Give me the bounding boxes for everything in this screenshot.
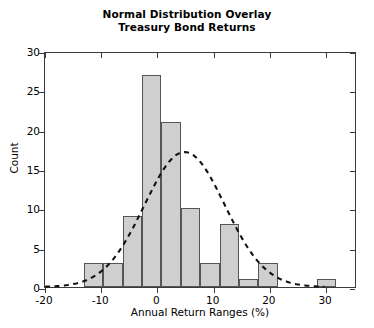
y-axis-tick-right	[350, 210, 355, 211]
y-axis-tick-label: 15	[27, 164, 40, 176]
x-axis-tick-label: -20	[35, 294, 52, 306]
y-axis-tick-right	[350, 132, 355, 133]
y-axis-tick-label: 10	[27, 203, 40, 215]
x-axis-title: Annual Return Ranges (%)	[44, 306, 356, 318]
chart-title: Normal Distribution Overlay Treasury Bon…	[0, 8, 374, 33]
x-axis-tick-top	[45, 53, 46, 58]
y-axis-tick-label: 0	[33, 282, 40, 294]
chart-figure: Normal Distribution Overlay Treasury Bon…	[0, 0, 374, 328]
chart-title-line2: Treasury Bond Returns	[0, 21, 374, 34]
y-axis-tick	[39, 92, 45, 93]
y-axis-tick	[39, 132, 45, 133]
x-axis-tick-top	[101, 53, 102, 58]
x-axis-tick-label: 20	[262, 294, 275, 306]
y-axis-tick-right	[350, 289, 355, 290]
y-axis-tick-label: 25	[27, 85, 40, 97]
x-axis-tick-label: -10	[92, 294, 109, 306]
x-axis-tick-top	[214, 53, 215, 58]
plot-area	[44, 52, 356, 288]
x-axis-tick-top	[326, 53, 327, 58]
chart-title-line1: Normal Distribution Overlay	[103, 8, 272, 20]
y-axis-tick-label: 5	[33, 243, 40, 255]
y-axis-labels: 051015202530	[0, 52, 40, 288]
y-axis-tick-right	[350, 250, 355, 251]
y-axis-tick	[39, 250, 45, 251]
x-axis-tick-top	[270, 53, 271, 58]
y-axis-tick-right	[350, 171, 355, 172]
x-axis-tick-label: 10	[206, 294, 219, 306]
y-axis-tick	[39, 171, 45, 172]
y-axis-tick-right	[350, 53, 355, 54]
x-axis-tick-top	[157, 53, 158, 58]
y-axis-tick-label: 20	[27, 125, 40, 137]
x-axis-tick-label: 30	[318, 294, 331, 306]
x-axis-tick-label: 0	[153, 294, 160, 306]
y-axis-tick-label: 30	[27, 46, 40, 58]
y-axis-tick-right	[350, 92, 355, 93]
normal-distribution-curve	[45, 53, 355, 287]
y-axis-tick	[39, 210, 45, 211]
